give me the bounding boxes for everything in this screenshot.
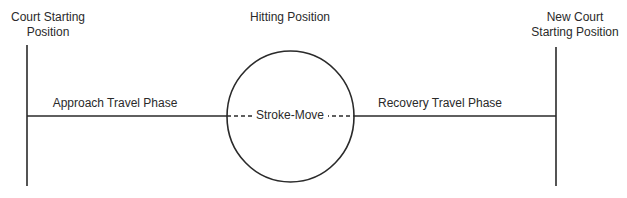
approach-travel-phase-label: Approach Travel Phase — [40, 96, 190, 111]
new-court-starting-position-label: New Court Starting Position — [520, 10, 627, 40]
stroke-move-label: Stroke-Move — [252, 108, 328, 123]
recovery-travel-phase-label: Recovery Travel Phase — [360, 96, 520, 111]
court-starting-position-label: Court Starting Position — [0, 10, 96, 40]
hitting-position-label: Hitting Position — [230, 10, 350, 25]
